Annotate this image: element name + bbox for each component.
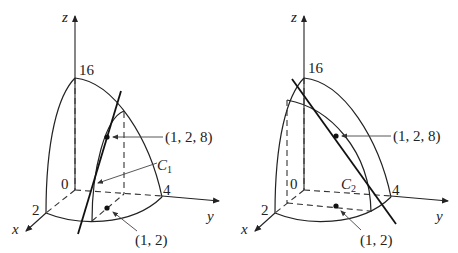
point-1-2-8-label: (1, 2, 8) [393, 128, 441, 145]
origin-label: 0 [290, 176, 298, 192]
origin-label: 0 [61, 176, 69, 192]
y-axis-hidden [75, 190, 162, 196]
section-curve [92, 111, 124, 221]
z-axis-label: z [290, 9, 297, 25]
point-1-2-label: (1, 2) [360, 232, 393, 249]
x-axis-label: x [11, 221, 19, 237]
y-tick-4: 4 [163, 182, 171, 198]
diagram-canvas: z 16 0 4 2 y x (1, 2, 8) (1, 2) C1 z 16 … [0, 0, 458, 253]
pointer-1-2 [341, 211, 361, 230]
y-axis [391, 196, 448, 201]
point-1-2-8 [104, 134, 109, 139]
point-1-2 [104, 205, 109, 210]
z-tick-16: 16 [79, 62, 95, 78]
curve-c1-label: C1 [157, 157, 172, 175]
surface-base-trace [46, 197, 162, 222]
point-1-2-8 [333, 133, 338, 138]
surface-base-trace [275, 197, 391, 222]
x-axis-hidden [275, 190, 304, 213]
section-base-dashed [287, 203, 370, 211]
x-axis-hidden [46, 190, 75, 213]
pointer-c1 [98, 163, 157, 183]
z-tick-16: 16 [308, 60, 324, 76]
y-axis-label: y [434, 208, 443, 224]
y-axis-label: y [205, 208, 214, 224]
point-1-2-8-label: (1, 2, 8) [165, 129, 213, 146]
x-tick-2: 2 [32, 202, 40, 218]
figure-right: z 16 0 4 2 y x (1, 2, 8) (1, 2) C2 [240, 9, 448, 249]
section-curve [287, 100, 371, 212]
y-tick-4: 4 [392, 182, 400, 198]
point-1-2-label: (1, 2) [135, 232, 168, 249]
z-axis-label: z [61, 9, 68, 25]
surface-yz-trace [75, 78, 162, 197]
x-tick-2: 2 [261, 202, 269, 218]
x-axis-label: x [240, 221, 248, 237]
tangent-line-c1 [78, 91, 121, 234]
point-1-2 [333, 203, 338, 208]
curve-c2-label: C2 [341, 176, 356, 194]
figure-left: z 16 0 4 2 y x (1, 2, 8) (1, 2) C1 [11, 9, 219, 249]
y-axis [162, 196, 219, 201]
